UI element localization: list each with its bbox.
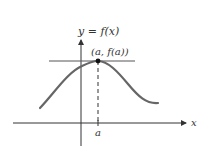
point-a-fa [96, 59, 101, 64]
function-curve [40, 61, 158, 108]
function-label: y = f(x) [77, 25, 119, 38]
tick-label-a: a [95, 127, 101, 138]
tangent-line-diagram: y = f(x) (a, f(a)) x a [0, 0, 214, 159]
point-label: (a, f(a)) [91, 46, 129, 57]
x-axis-label: x [191, 117, 197, 128]
